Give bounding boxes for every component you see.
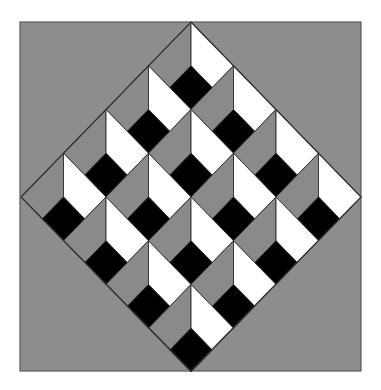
- pattern-canvas: [0, 0, 381, 390]
